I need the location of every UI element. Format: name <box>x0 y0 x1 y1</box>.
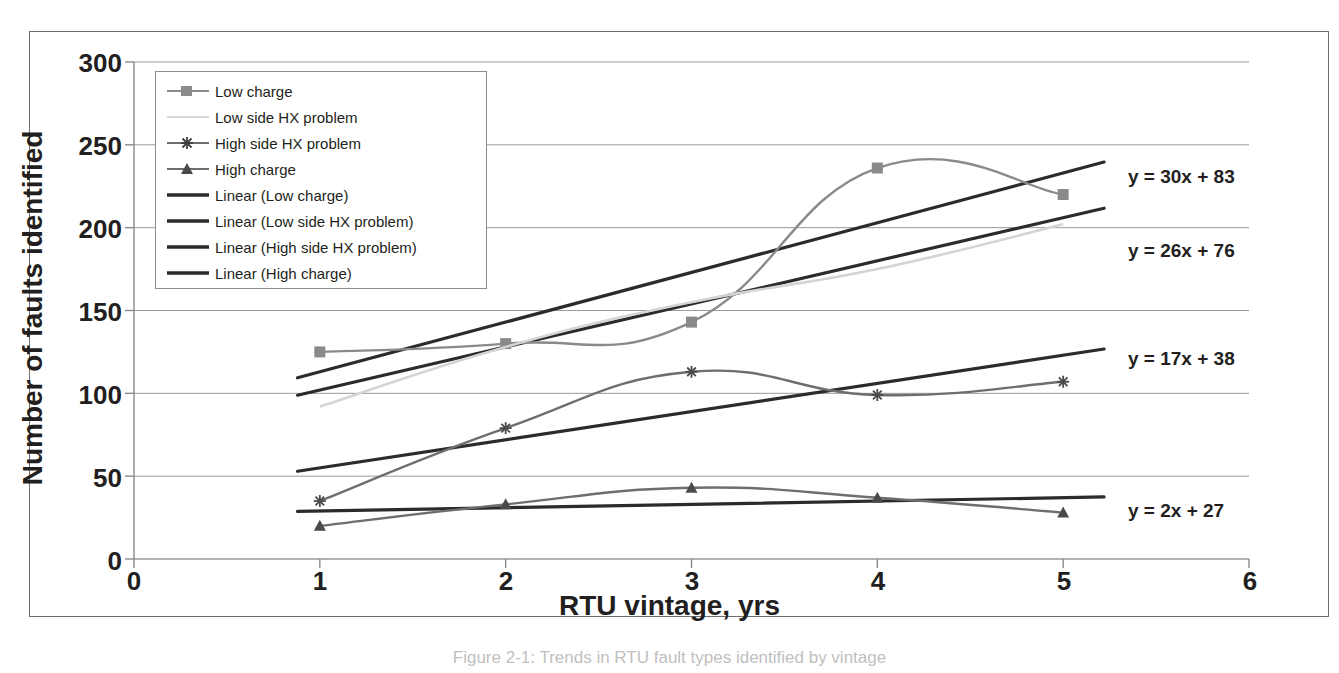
legend-item-low-charge: Low charge <box>156 78 486 104</box>
legend-label: High side HX problem <box>215 136 361 151</box>
annotation-trend-low-charge: y = 30x + 83 <box>1128 166 1235 188</box>
marker-square <box>686 317 697 328</box>
y-tick-300: 300 <box>52 50 122 76</box>
chart-legend: Low charge Low side HX problem High side… <box>155 71 487 289</box>
legend-marker-triangle-icon <box>166 160 210 178</box>
y-axis-title: Number of faults identified <box>17 83 49 533</box>
legend-label: Linear (Low side HX problem) <box>215 214 413 229</box>
legend-item-trend-high-charge: Linear (High charge) <box>156 260 486 286</box>
legend-label: High charge <box>215 162 296 177</box>
legend-item-trend-high-side-hx: Linear (High side HX problem) <box>156 234 486 260</box>
marker-star <box>1057 376 1069 388</box>
marker-square <box>1058 189 1069 200</box>
legend-label: Linear (High charge) <box>215 266 352 281</box>
figure-root: 300 250 200 150 100 50 0 0 1 2 3 4 5 6 R… <box>0 0 1339 673</box>
marker-star <box>314 495 326 507</box>
series-line-2 <box>320 371 1063 501</box>
y-tick-250: 250 <box>52 133 122 159</box>
legend-label: Low side HX problem <box>215 110 358 125</box>
trendline-3 <box>298 497 1105 511</box>
marker-square <box>314 346 325 357</box>
series-line-3 <box>320 488 1063 526</box>
legend-marker-star-icon <box>166 134 210 152</box>
legend-item-low-side-hx: Low side HX problem <box>156 104 486 130</box>
marker-star <box>686 366 698 378</box>
legend-trendline-icon <box>166 264 210 282</box>
legend-trendline-icon <box>166 212 210 230</box>
figure-caption: Figure 2-1: Trends in RTU fault types id… <box>0 648 1339 668</box>
legend-marker-square-icon <box>166 82 210 100</box>
marker-star <box>500 422 512 434</box>
legend-item-trend-low-charge: Linear (Low charge) <box>156 182 486 208</box>
legend-item-high-charge: High charge <box>156 156 486 182</box>
marker-star <box>871 389 883 401</box>
y-tick-150: 150 <box>52 299 122 325</box>
y-tick-50: 50 <box>52 465 122 491</box>
annotation-trend-low-side-hx: y = 26x + 76 <box>1128 240 1235 262</box>
y-tick-100: 100 <box>52 382 122 408</box>
legend-trendline-icon <box>166 186 210 204</box>
legend-line-light-icon <box>166 108 210 126</box>
legend-label: Linear (High side HX problem) <box>215 240 417 255</box>
annotation-trend-high-side-hx: y = 17x + 38 <box>1128 348 1235 370</box>
marker-square <box>872 163 883 174</box>
y-tick-0: 0 <box>52 548 122 574</box>
annotation-trend-high-charge: y = 2x + 27 <box>1128 500 1224 522</box>
legend-item-trend-low-side-hx: Linear (Low side HX problem) <box>156 208 486 234</box>
x-axis-title: RTU vintage, yrs <box>0 590 1339 622</box>
legend-label: Linear (Low charge) <box>215 188 348 203</box>
legend-label: Low charge <box>215 84 293 99</box>
legend-item-high-side-hx: High side HX problem <box>156 130 486 156</box>
y-tick-200: 200 <box>52 216 122 242</box>
legend-trendline-icon <box>166 238 210 256</box>
